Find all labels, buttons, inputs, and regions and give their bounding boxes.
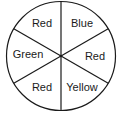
section-label-yellow: Yellow: [66, 81, 97, 93]
section-label-green: Green: [13, 48, 44, 60]
center-pivot: [60, 55, 63, 58]
section-label-blue: Blue: [71, 17, 93, 29]
section-label-red-right: Red: [85, 50, 105, 62]
spinner-diagram: Blue Red Yellow Red Green Red: [0, 0, 117, 119]
section-label-red-top-left: Red: [32, 17, 52, 29]
section-label-red-bottom-left: Red: [32, 81, 52, 93]
